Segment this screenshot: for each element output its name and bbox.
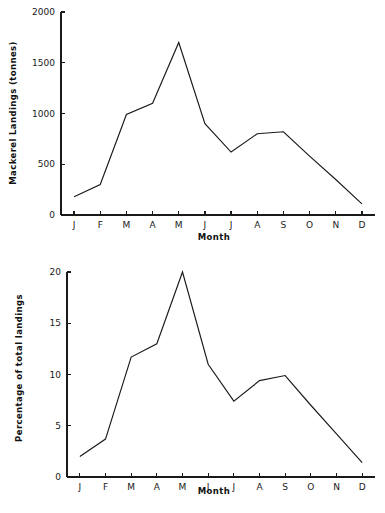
- x-tick-label: M: [179, 482, 187, 492]
- chart-mackerel-landings: 0500100015002000 JFMAMJJASOND Month Mack…: [0, 0, 385, 248]
- x-tick-label: S: [281, 220, 287, 230]
- y-tick-label: 20: [50, 267, 62, 277]
- bottom-caption: [0, 503, 385, 513]
- x-tick-label: N: [333, 482, 340, 492]
- x-tick-label: A: [254, 220, 261, 230]
- y-axis-title: Percentage of total landings: [14, 294, 24, 442]
- data-series-line: [74, 42, 362, 203]
- y-tick-label: 0: [49, 210, 55, 220]
- x-axis-title: Month: [198, 486, 230, 496]
- percentage-landings-plot: 05101520 JFMAMJJASOND Month Percentage o…: [0, 248, 385, 503]
- y-tick-label: 2000: [32, 7, 55, 17]
- x-tick-label: D: [358, 220, 365, 230]
- x-tick-label: O: [307, 482, 314, 492]
- x-tick-label: J: [232, 482, 236, 492]
- x-axis-tick-labels: JFMAMJJASOND: [72, 220, 366, 230]
- x-tick-label: J: [72, 220, 76, 230]
- y-tick-label: 500: [38, 159, 55, 169]
- y-axis-tick-labels: 05101520: [50, 267, 62, 482]
- mackerel-landings-plot: 0500100015002000 JFMAMJJASOND Month Mack…: [0, 0, 385, 248]
- y-tick-label: 10: [50, 370, 62, 380]
- data-series-line: [80, 272, 362, 463]
- x-tick-label: A: [154, 482, 161, 492]
- x-tick-label: F: [98, 220, 103, 230]
- y-tick-label: 1500: [32, 58, 55, 68]
- y-axis-title: Mackerel Landings (tonnes): [8, 41, 18, 185]
- x-tick-label: M: [123, 220, 131, 230]
- y-tick-label: 0: [55, 472, 61, 482]
- x-tick-label: O: [306, 220, 313, 230]
- x-tick-label: F: [103, 482, 108, 492]
- x-tick-label: S: [282, 482, 288, 492]
- x-tick-label: N: [332, 220, 339, 230]
- y-tick-label: 15: [50, 318, 61, 328]
- x-tick-label: J: [78, 482, 82, 492]
- x-tick-label: D: [359, 482, 366, 492]
- x-tick-label: M: [127, 482, 135, 492]
- x-tick-label: A: [256, 482, 263, 492]
- y-tick-label: 5: [55, 421, 61, 431]
- x-tick-label: A: [149, 220, 156, 230]
- x-tick-label: J: [229, 220, 233, 230]
- x-axis-title: Month: [198, 232, 230, 242]
- y-axis-tick-labels: 0500100015002000: [32, 7, 55, 220]
- chart-percentage-of-total-landings: 05101520 JFMAMJJASOND Month Percentage o…: [0, 248, 385, 503]
- x-tick-label: J: [203, 220, 207, 230]
- y-tick-label: 1000: [32, 109, 55, 119]
- x-tick-label: M: [175, 220, 183, 230]
